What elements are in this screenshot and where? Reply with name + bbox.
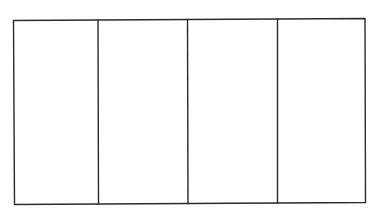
panel-1 xyxy=(13,19,98,204)
panel-labels xyxy=(13,19,365,204)
panel-4 xyxy=(277,19,365,204)
panel-3 xyxy=(188,19,277,204)
panel-2 xyxy=(98,19,188,204)
